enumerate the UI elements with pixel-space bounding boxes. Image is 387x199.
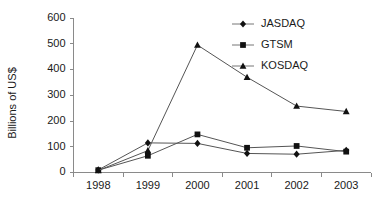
legend-item-gtsm[interactable]: GTSM — [232, 38, 293, 50]
marker-diamond — [294, 151, 300, 158]
marker-diamond — [244, 150, 250, 157]
marker-triangle — [293, 102, 300, 108]
legend-item-kosdaq[interactable]: KOSDAQ — [232, 59, 309, 71]
legend-item-jasdaq[interactable]: JASDAQ — [232, 17, 305, 29]
marker-square — [145, 153, 151, 159]
y-axis-ticks: 0100200300400500600 — [47, 11, 73, 178]
x-tick-label: 2001 — [235, 179, 259, 191]
marker-triangle — [144, 147, 151, 153]
chart-container: Billions of US$ 0100200300400500600 1998… — [0, 0, 387, 199]
legend-label: KOSDAQ — [261, 59, 309, 71]
y-tick-label: 100 — [47, 140, 65, 152]
y-tick-label: 0 — [59, 165, 65, 177]
x-axis-ticks: 199819992000200120022003 — [74, 173, 372, 191]
data-series-group — [95, 41, 350, 173]
y-tick-label: 200 — [47, 114, 65, 126]
line-chart: Billions of US$ 0100200300400500600 1998… — [0, 0, 387, 199]
y-tick-label: 500 — [47, 37, 65, 49]
y-tick-label: 300 — [47, 88, 65, 100]
marker-triangle — [194, 41, 201, 47]
y-tick-label: 600 — [47, 11, 65, 23]
x-tick-label: 2003 — [334, 179, 358, 191]
marker-square — [343, 149, 349, 155]
x-tick-label: 2000 — [185, 179, 209, 191]
series-line — [98, 134, 346, 170]
legend-label: GTSM — [261, 38, 293, 50]
x-tick-label: 1998 — [86, 179, 110, 191]
x-tick-label: 1999 — [136, 179, 160, 191]
y-tick-label: 400 — [47, 62, 65, 74]
legend-label: JASDAQ — [261, 17, 305, 29]
x-tick-label: 2002 — [284, 179, 308, 191]
series-gtsm — [95, 132, 349, 174]
marker-square — [294, 143, 300, 149]
marker-square — [240, 42, 246, 48]
y-axis-title: Billions of US$ — [6, 67, 18, 139]
marker-diamond — [194, 140, 200, 147]
marker-square — [244, 145, 250, 151]
marker-diamond — [240, 20, 246, 27]
series-line — [98, 45, 346, 170]
chart-legend: JASDAQGTSMKOSDAQ — [232, 17, 309, 71]
marker-triangle — [244, 74, 251, 80]
marker-square — [195, 132, 201, 138]
